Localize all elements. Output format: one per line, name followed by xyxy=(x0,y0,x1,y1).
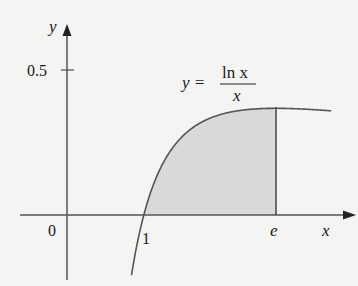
equation-numerator: ln x xyxy=(222,63,248,82)
y-tick-label-half: 0.5 xyxy=(27,62,47,79)
origin-label: 0 xyxy=(48,222,56,239)
x-axis-arrow-icon xyxy=(343,211,356,220)
chart-svg: y 0.5 0 1 e x y = ln x x xyxy=(0,0,358,286)
equation-numerator-text: ln x xyxy=(222,63,248,82)
x-tick-label-e: e xyxy=(270,221,278,240)
x-tick-label-one: 1 xyxy=(142,230,150,247)
equation-denominator: x xyxy=(232,86,241,105)
y-axis-arrow-icon xyxy=(63,24,72,36)
equation-lhs: y = xyxy=(180,73,205,92)
x-axis-label: x xyxy=(321,221,330,240)
equation-label: y = ln x x xyxy=(180,63,256,105)
y-axis-label: y xyxy=(47,17,57,36)
chart-figure: y 0.5 0 1 e x y = ln x x xyxy=(0,0,358,286)
